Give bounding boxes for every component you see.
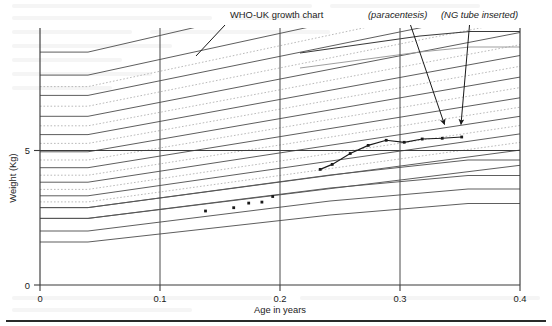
patient-point-12 xyxy=(421,138,424,141)
y-axis-title: Weight (Kg) xyxy=(7,153,18,202)
patient-point-2 xyxy=(232,206,235,209)
page-bleed-artifact xyxy=(0,0,552,326)
patient-point-13 xyxy=(441,137,444,140)
chart-canvas: WHO-UK growth chart (paracentesis) (NG t… xyxy=(0,0,552,326)
patient-point-10 xyxy=(385,139,388,142)
patient-point-3 xyxy=(247,202,250,205)
paracentesis-annotation: (paracentesis) xyxy=(368,9,427,20)
patient-point-5 xyxy=(271,195,274,198)
chart-title-annotation: WHO-UK growth chart xyxy=(230,9,324,20)
x-axis-title: Age in years xyxy=(254,304,306,315)
ng-tube-annotation: (NG tube inserted) xyxy=(441,9,518,20)
x-tick-label-0.1: 0.1 xyxy=(153,293,166,304)
x-tick-label-0: 0 xyxy=(37,293,42,304)
growth-chart-figure: WHO-UK growth chart (paracentesis) (NG t… xyxy=(0,0,552,326)
patient-point-8 xyxy=(349,152,352,155)
x-tick-label-0.3: 0.3 xyxy=(393,293,406,304)
x-tick-label-0.4: 0.4 xyxy=(513,293,526,304)
page-footer-rule xyxy=(6,320,546,322)
y-tick-label-5: 5 xyxy=(25,145,30,156)
patient-point-1 xyxy=(204,210,207,213)
patient-point-9 xyxy=(367,144,370,147)
y-tick-label-0: 0 xyxy=(25,280,30,291)
x-tick-label-0.2: 0.2 xyxy=(273,293,286,304)
patient-point-14 xyxy=(460,136,463,139)
patient-point-7 xyxy=(331,163,334,166)
patient-point-6 xyxy=(319,168,322,171)
patient-point-4 xyxy=(261,201,264,204)
patient-point-11 xyxy=(403,141,406,144)
